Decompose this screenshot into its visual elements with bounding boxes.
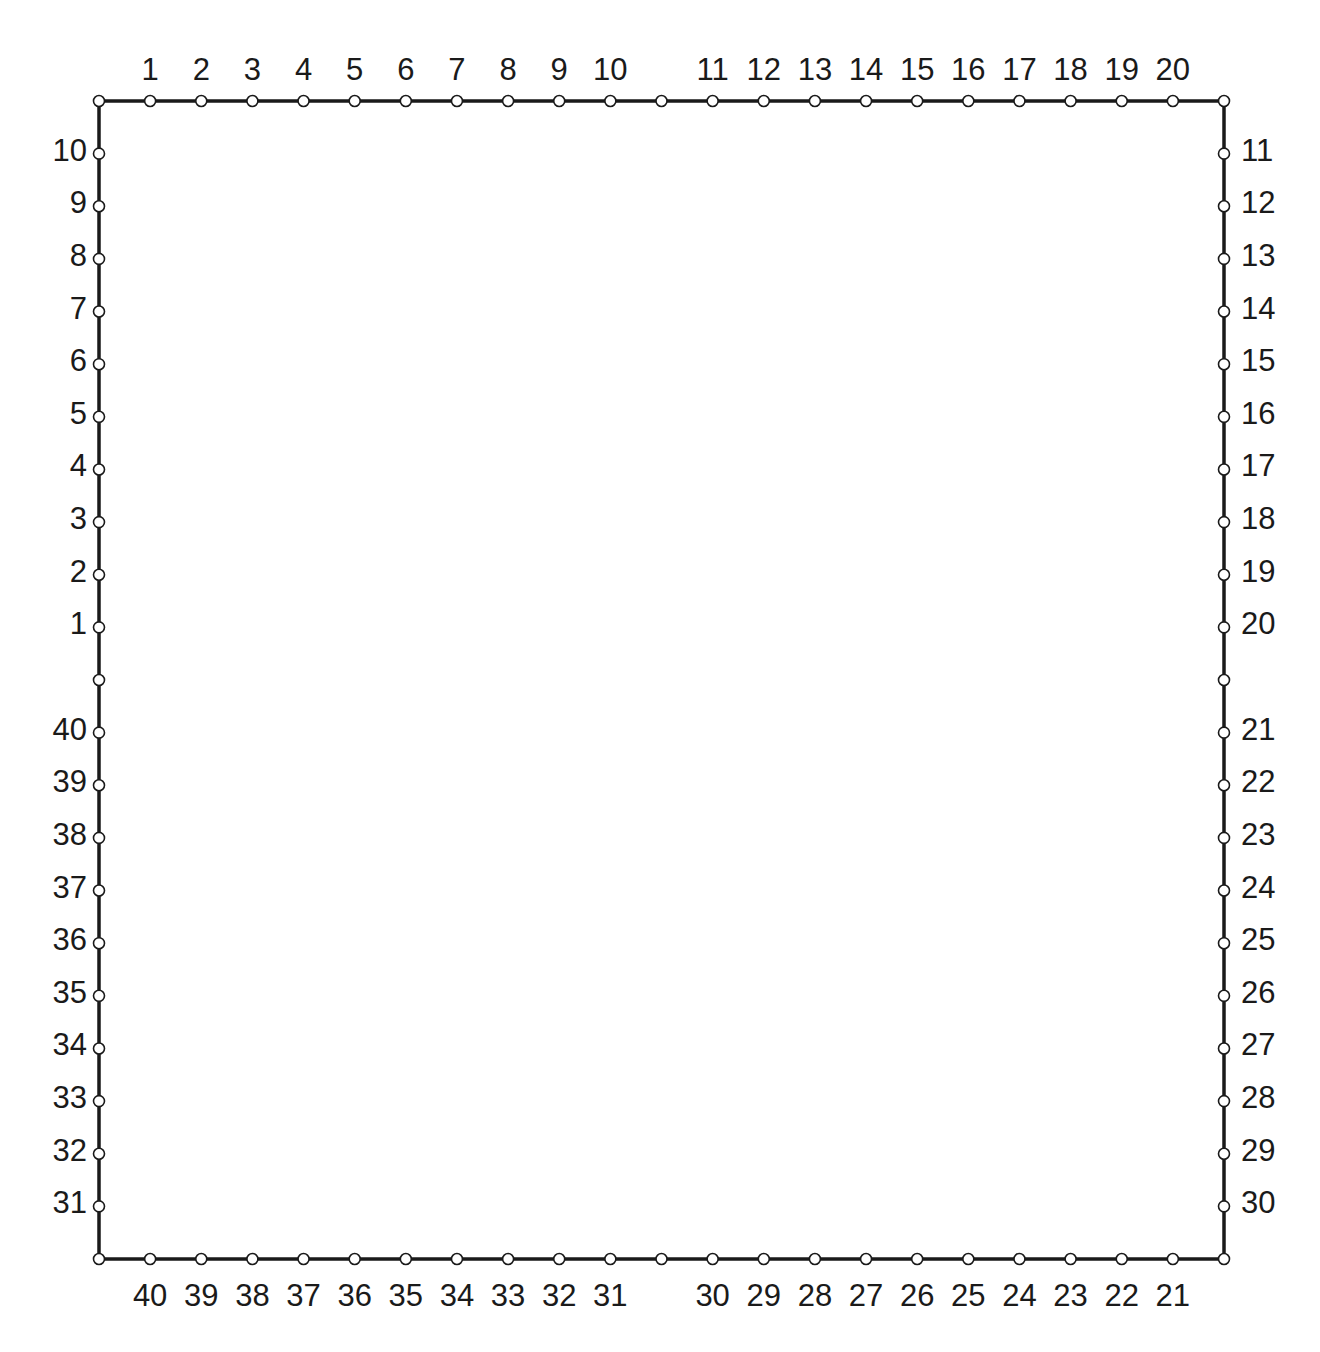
pin-node [1219, 517, 1230, 528]
pin-node [1219, 780, 1230, 791]
pin-label-top-12: 12 [747, 54, 781, 85]
pin-label-left-4: 4 [70, 450, 87, 481]
pin-node [451, 1254, 462, 1265]
pin-label-top-3: 3 [244, 54, 261, 85]
pin-label-right-15: 15 [1241, 345, 1275, 376]
pin-label-left-8: 8 [70, 239, 87, 270]
pin-node [1167, 1254, 1178, 1265]
pin-node [1219, 1254, 1230, 1265]
pin-label-bottom-24: 24 [1002, 1280, 1036, 1311]
pin-node [94, 727, 105, 738]
pin-node [1219, 622, 1230, 633]
pin-label-bottom-27: 27 [849, 1280, 883, 1311]
pin-node [503, 96, 514, 107]
pin-node [1014, 1254, 1025, 1265]
pin-label-right-29: 29 [1241, 1134, 1275, 1165]
pin-node [451, 96, 462, 107]
pin-node [912, 1254, 923, 1265]
pin-label-right-30: 30 [1241, 1187, 1275, 1218]
pin-label-bottom-26: 26 [900, 1280, 934, 1311]
pin-label-bottom-30: 30 [695, 1280, 729, 1311]
pin-label-top-1: 1 [142, 54, 159, 85]
pin-label-top-19: 19 [1104, 54, 1138, 85]
pin-label-bottom-22: 22 [1104, 1280, 1138, 1311]
pin-label-top-17: 17 [1002, 54, 1036, 85]
pin-label-right-23: 23 [1241, 818, 1275, 849]
pin-label-bottom-31: 31 [593, 1280, 627, 1311]
pin-label-left-10: 10 [53, 134, 87, 165]
pin-node [1219, 885, 1230, 896]
pin-node [1219, 306, 1230, 317]
pin-node [1219, 411, 1230, 422]
pin-label-top-6: 6 [397, 54, 414, 85]
pin-label-top-2: 2 [193, 54, 210, 85]
pin-label-top-5: 5 [346, 54, 363, 85]
pin-node [94, 96, 105, 107]
pin-label-left-6: 6 [70, 345, 87, 376]
frame-border [99, 101, 1224, 1259]
pin-label-right-19: 19 [1241, 555, 1275, 586]
pin-label-bottom-23: 23 [1053, 1280, 1087, 1311]
pin-label-right-28: 28 [1241, 1082, 1275, 1113]
pin-label-bottom-25: 25 [951, 1280, 985, 1311]
pin-node [400, 96, 411, 107]
pin-label-top-16: 16 [951, 54, 985, 85]
pin-node [94, 253, 105, 264]
pin-label-left-38: 38 [53, 818, 87, 849]
pin-label-top-9: 9 [551, 54, 568, 85]
pin-label-bottom-29: 29 [747, 1280, 781, 1311]
pin-label-left-37: 37 [53, 871, 87, 902]
pin-node [94, 148, 105, 159]
pin-label-bottom-34: 34 [440, 1280, 474, 1311]
pin-node [963, 96, 974, 107]
pin-label-left-7: 7 [70, 292, 87, 323]
pin-node [1219, 148, 1230, 159]
pin-node [554, 1254, 565, 1265]
pin-label-right-18: 18 [1241, 503, 1275, 534]
pin-node [1116, 1254, 1127, 1265]
pin-node [1219, 1043, 1230, 1054]
pin-node [145, 1254, 156, 1265]
pin-node [1014, 96, 1025, 107]
pin-label-left-9: 9 [70, 187, 87, 218]
pin-node [145, 96, 156, 107]
pin-label-left-39: 39 [53, 766, 87, 797]
pin-node [94, 201, 105, 212]
pin-node [1065, 96, 1076, 107]
pin-label-right-26: 26 [1241, 976, 1275, 1007]
pin-node [94, 411, 105, 422]
pin-label-right-20: 20 [1241, 608, 1275, 639]
pin-node [1116, 96, 1127, 107]
pin-node [196, 1254, 207, 1265]
pin-node [298, 1254, 309, 1265]
pin-node [94, 569, 105, 580]
pin-node [1219, 569, 1230, 580]
pin-label-bottom-39: 39 [184, 1280, 218, 1311]
pin-node [1219, 359, 1230, 370]
pin-node [656, 1254, 667, 1265]
pin-label-left-31: 31 [53, 1187, 87, 1218]
pin-node [94, 464, 105, 475]
pin-node [94, 1148, 105, 1159]
pin-label-left-1: 1 [70, 608, 87, 639]
pin-node [94, 359, 105, 370]
pin-node [94, 832, 105, 843]
pin-node [1219, 201, 1230, 212]
pin-node [1219, 1201, 1230, 1212]
pin-node [1219, 1148, 1230, 1159]
pin-node [1219, 675, 1230, 686]
pin-label-left-36: 36 [53, 924, 87, 955]
pin-node [1219, 96, 1230, 107]
pin-node [94, 675, 105, 686]
pin-node [1219, 727, 1230, 738]
pin-label-bottom-36: 36 [337, 1280, 371, 1311]
pin-node [349, 1254, 360, 1265]
pin-node [1219, 464, 1230, 475]
pin-node [912, 96, 923, 107]
pin-node [1167, 96, 1178, 107]
pin-label-top-18: 18 [1053, 54, 1087, 85]
pin-node [94, 990, 105, 1001]
pin-label-right-12: 12 [1241, 187, 1275, 218]
pin-node [758, 1254, 769, 1265]
pin-label-bottom-37: 37 [286, 1280, 320, 1311]
